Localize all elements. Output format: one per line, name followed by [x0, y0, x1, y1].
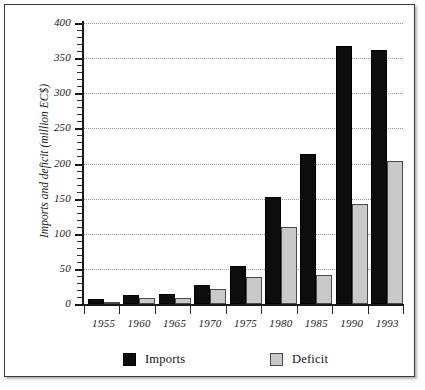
y-tick-minor	[77, 121, 82, 122]
y-tick-minor	[77, 30, 82, 31]
y-axis-tick-label: 300	[29, 86, 71, 98]
y-tick-major	[75, 304, 83, 306]
y-tick-major	[75, 164, 83, 166]
y-axis-tick-label: 0	[29, 297, 71, 309]
y-tick-minor	[77, 192, 82, 193]
bar-imports-1960	[123, 295, 139, 304]
x-tick	[119, 306, 120, 314]
y-tick-minor	[77, 44, 82, 45]
bar-group	[371, 23, 403, 304]
y-tick-minor	[77, 227, 82, 228]
legend-item-deficit: Deficit	[270, 352, 328, 367]
y-tick-minor	[77, 135, 82, 136]
bar-group	[123, 23, 155, 304]
bar-imports-1990	[336, 46, 352, 304]
y-tick-minor	[77, 290, 82, 291]
bar-deficit-1993	[387, 161, 403, 304]
y-tick-minor	[77, 100, 82, 101]
y-axis-tick-label: 150	[29, 192, 71, 204]
y-tick-minor	[77, 149, 82, 150]
bar-group	[300, 23, 332, 304]
bar-imports-1975	[230, 266, 246, 304]
y-axis-tick-label: 350	[29, 51, 71, 63]
y-tick-major	[75, 128, 83, 130]
y-tick-minor	[77, 171, 82, 172]
y-axis-tick-label: 50	[29, 262, 71, 274]
bar-imports-1993	[371, 50, 387, 304]
y-tick-minor	[77, 107, 82, 108]
y-tick-minor	[77, 220, 82, 221]
bar-deficit-1990	[352, 204, 368, 304]
y-tick-minor	[77, 51, 82, 52]
bar-deficit-1975	[246, 277, 262, 304]
bar-deficit-1985	[316, 275, 332, 305]
bar-imports-1985	[300, 154, 316, 304]
x-tick	[261, 306, 262, 314]
x-tick	[226, 306, 227, 314]
y-axis-tick-label: 200	[29, 157, 71, 169]
bar-deficit-1965	[175, 298, 191, 304]
bar-group	[88, 23, 120, 304]
y-tick-minor	[77, 255, 82, 256]
bar-group	[336, 23, 368, 304]
bar-imports-1970	[194, 285, 210, 304]
x-tick	[84, 306, 85, 314]
bar-group	[159, 23, 191, 304]
y-axis-tick-label: 100	[29, 227, 71, 239]
x-tick	[297, 306, 298, 314]
bar-imports-1955	[88, 299, 104, 304]
x-tick	[155, 306, 156, 314]
y-tick-minor	[77, 37, 82, 38]
bar-deficit-1960	[139, 298, 155, 304]
x-tick	[368, 306, 369, 314]
y-tick-minor	[77, 297, 82, 298]
x-axis-line	[82, 304, 404, 306]
legend-swatch-deficit-icon	[270, 353, 283, 366]
bar-deficit-1970	[210, 289, 226, 304]
chart-figure: Imports and deficit (million EC$) 050100…	[4, 4, 415, 377]
y-tick-major	[75, 23, 83, 25]
legend-swatch-imports-icon	[123, 353, 136, 366]
y-tick-minor	[77, 248, 82, 249]
y-tick-minor	[77, 178, 82, 179]
y-tick-minor	[77, 79, 82, 80]
y-tick-major	[75, 269, 83, 271]
x-axis-tick-label: 1993	[357, 317, 417, 329]
bar-group	[230, 23, 262, 304]
y-tick-major	[75, 58, 83, 60]
bar-deficit-1980	[281, 227, 297, 304]
y-tick-minor	[77, 65, 82, 66]
y-tick-minor	[77, 114, 82, 115]
plot-area	[84, 23, 403, 304]
x-tick	[190, 306, 191, 314]
y-tick-minor	[77, 283, 82, 284]
legend-label-deficit: Deficit	[292, 352, 328, 367]
y-tick-minor	[77, 72, 82, 73]
legend-label-imports: Imports	[145, 352, 185, 367]
y-tick-minor	[77, 156, 82, 157]
y-tick-minor	[77, 86, 82, 87]
y-tick-minor	[77, 206, 82, 207]
bar-deficit-1955	[104, 302, 120, 304]
y-tick-minor	[77, 142, 82, 143]
legend-item-imports: Imports	[123, 352, 185, 367]
y-tick-major	[75, 234, 83, 236]
y-tick-minor	[77, 213, 82, 214]
x-tick	[332, 306, 333, 314]
y-tick-minor	[77, 276, 82, 277]
y-tick-major	[75, 199, 83, 201]
y-tick-minor	[77, 241, 82, 242]
bar-group	[194, 23, 226, 304]
y-tick-minor	[77, 185, 82, 186]
y-axis-tick-label: 250	[29, 121, 71, 133]
x-tick	[403, 306, 404, 314]
y-tick-major	[75, 93, 83, 95]
chart-legend: Imports Deficit	[5, 350, 416, 374]
bar-imports-1965	[159, 294, 175, 304]
y-tick-minor	[77, 262, 82, 263]
y-axis-tick-label: 400	[29, 16, 71, 28]
bar-group	[265, 23, 297, 304]
bar-imports-1980	[265, 197, 281, 304]
